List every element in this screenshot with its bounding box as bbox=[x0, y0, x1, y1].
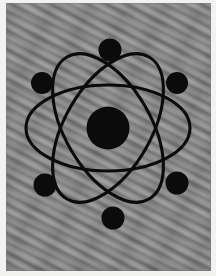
image-canvas bbox=[0, 0, 216, 276]
electron-upper-left bbox=[31, 72, 53, 94]
electron-lower-left bbox=[34, 174, 57, 197]
atom-nucleus bbox=[87, 107, 130, 150]
electron-upper-right bbox=[166, 72, 188, 94]
atom-illustration bbox=[6, 3, 211, 271]
electron-lower-right bbox=[166, 172, 189, 195]
electron-bottom bbox=[102, 207, 125, 230]
electron-top bbox=[99, 39, 122, 62]
textured-plate bbox=[6, 3, 211, 271]
